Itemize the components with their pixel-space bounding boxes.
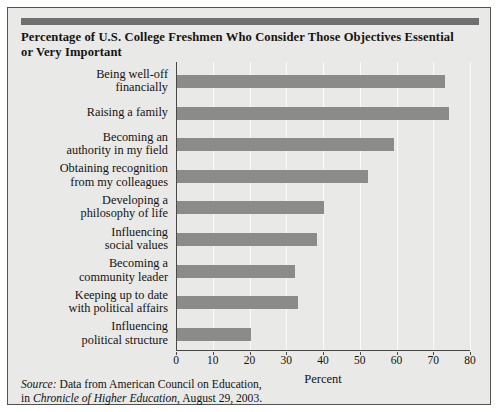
category-label-line: Raising a family [8, 106, 168, 119]
bar [177, 170, 368, 183]
tick-label-80: 80 [450, 354, 490, 366]
plot-area: Being well-offfinanciallyRaising a famil… [8, 60, 492, 360]
bar [177, 75, 445, 88]
category-label-line: Developing a [8, 194, 168, 207]
bar [177, 265, 295, 278]
source-publication: Chronicle of Higher Education [33, 392, 177, 405]
category-label-line: Becoming an [8, 131, 168, 144]
category-label-line: political structure [8, 334, 168, 347]
title-rule [21, 18, 479, 25]
bar [177, 233, 317, 246]
tick-label-10: 10 [193, 354, 233, 366]
bar [177, 328, 251, 341]
category-label-line: Becoming a [8, 257, 168, 270]
source-text-3: , August 29, 2003. [177, 392, 262, 405]
tick-label-30: 30 [266, 354, 306, 366]
category-label: Being well-offfinancially [8, 68, 172, 95]
source-note: Source: Data from American Council on Ed… [21, 378, 461, 405]
category-label-line: authority in my field [8, 144, 168, 157]
bar [177, 107, 449, 120]
category-label: Influencingpolitical structure [8, 320, 172, 347]
source-text-2: in [21, 392, 33, 405]
category-label-line: financially [8, 81, 168, 94]
gridline-60 [397, 62, 398, 350]
tick-label-70: 70 [413, 354, 453, 366]
tick-label-40: 40 [303, 354, 343, 366]
tick-label-20: 20 [230, 354, 270, 366]
category-label-line: with political affairs [8, 302, 168, 315]
category-label-line: social values [8, 239, 168, 252]
source-text-1: Data from American Council on Education, [57, 378, 262, 391]
tick-label-50: 50 [340, 354, 380, 366]
gridline-50 [360, 62, 361, 350]
tick-label-60: 60 [377, 354, 417, 366]
category-label-line: Being well-off [8, 68, 168, 81]
category-label-line: Keeping up to date [8, 289, 168, 302]
chart-title: Percentage of U.S. College Freshmen Who … [21, 30, 461, 59]
category-label-line: community leader [8, 271, 168, 284]
chart-figure: Percentage of U.S. College Freshmen Who … [7, 7, 491, 405]
tick-label-0: 0 [156, 354, 196, 366]
gridline-80 [470, 62, 471, 350]
category-label: Raising a family [8, 106, 172, 119]
category-label: Influencingsocial values [8, 226, 172, 253]
source-label: Source: [21, 378, 57, 391]
category-label: Becoming anauthority in my field [8, 131, 172, 158]
category-label-line: Influencing [8, 226, 168, 239]
bar [177, 296, 298, 309]
gridline-70 [433, 62, 434, 350]
category-label-line: from my colleagues [8, 176, 168, 189]
category-label-line: Influencing [8, 320, 168, 333]
category-label: Becoming acommunity leader [8, 257, 172, 284]
category-label-line: philosophy of life [8, 207, 168, 220]
bar [177, 201, 324, 214]
category-label: Obtaining recognitionfrom my colleagues [8, 162, 172, 189]
category-label-line: Obtaining recognition [8, 162, 168, 175]
category-label: Developing aphilosophy of life [8, 194, 172, 221]
category-label: Keeping up to datewith political affairs [8, 289, 172, 316]
bar [177, 138, 394, 151]
